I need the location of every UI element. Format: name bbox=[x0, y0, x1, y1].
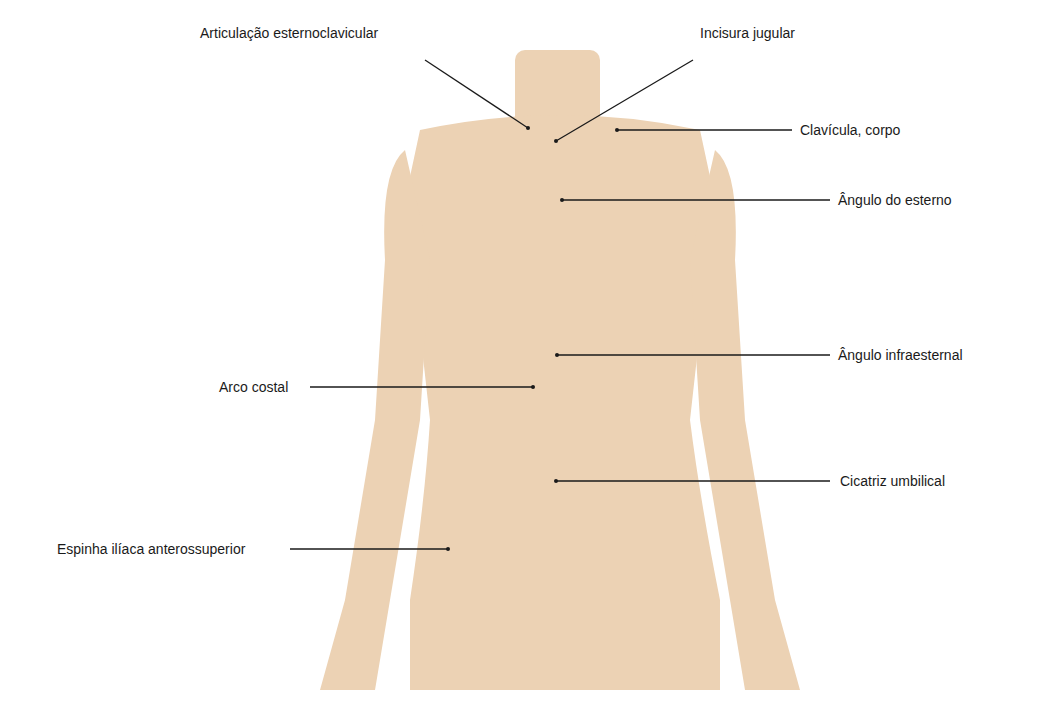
landmark-dot-angulo-infraesternal bbox=[555, 353, 559, 357]
label-espinha-iliaca-anterossuperior: Espinha ilíaca anterossuperior bbox=[57, 541, 245, 557]
label-cicatriz-umbilical: Cicatriz umbilical bbox=[840, 473, 945, 489]
landmark-dot-articulacao-esternoclavicular bbox=[526, 126, 530, 130]
label-angulo-infraesternal: Ângulo infraesternal bbox=[838, 347, 963, 363]
label-articulacao-esternoclavicular: Articulação esternoclavicular bbox=[200, 25, 378, 41]
landmark-dot-cicatriz-umbilical bbox=[554, 479, 558, 483]
landmark-dot-incisura-jugular bbox=[554, 139, 558, 143]
leader-line-articulacao-esternoclavicular bbox=[425, 60, 528, 128]
landmark-dot-espinha-iliaca-anterossuperior bbox=[446, 547, 450, 551]
label-clavicula-corpo: Clavícula, corpo bbox=[800, 122, 900, 138]
label-angulo-do-esterno: Ângulo do esterno bbox=[838, 192, 952, 208]
landmark-dot-arco-costal bbox=[531, 385, 535, 389]
label-arco-costal: Arco costal bbox=[219, 379, 288, 395]
landmark-dot-clavicula-corpo bbox=[615, 128, 619, 132]
body-silhouette bbox=[320, 50, 800, 690]
landmark-dot-angulo-do-esterno bbox=[560, 198, 564, 202]
label-incisura-jugular: Incisura jugular bbox=[700, 25, 795, 41]
